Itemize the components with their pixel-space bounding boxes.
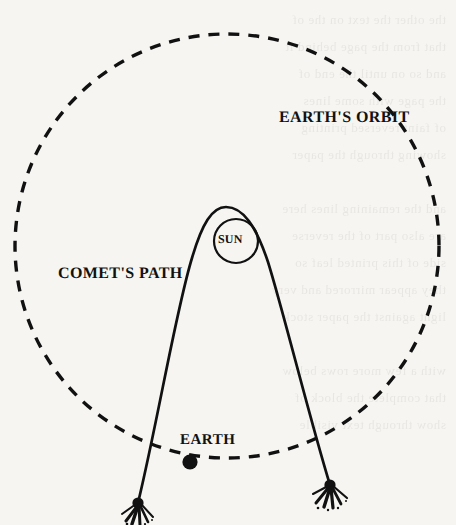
comet-head-left	[122, 497, 153, 525]
earth-label: EARTH	[180, 432, 235, 449]
sun-label: SUN	[218, 232, 243, 247]
comet-path-diagram: the other the text on the of that from t…	[0, 0, 456, 525]
earths-orbit-label: EARTH'S ORBIT	[279, 109, 409, 127]
comets-path-label: COMET'S PATH	[58, 265, 183, 283]
comet-head-right	[313, 479, 347, 511]
earth-dot	[182, 454, 197, 469]
